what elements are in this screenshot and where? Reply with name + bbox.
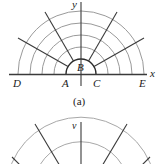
conformal-mapping-figure: x y B D A C E (a) v — [0, 0, 158, 164]
v-axis-label: v — [72, 121, 76, 131]
figure-b-diagram — [0, 0, 158, 164]
